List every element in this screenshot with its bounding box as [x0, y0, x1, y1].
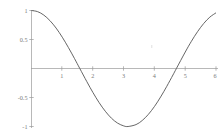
x-tick-label-6: 6 [213, 72, 216, 79]
x-tick-label-1: 1 [60, 72, 63, 79]
x-tick-label-2: 2 [91, 72, 94, 79]
y-tick-label-1: 1 [24, 7, 27, 14]
x-tick-label-3: 3 [122, 72, 125, 79]
y-tick-label-0.5: 0.5 [20, 36, 28, 43]
y-tick-label-neg1: -1 [22, 123, 27, 130]
x-tick-label-4: 4 [153, 72, 156, 79]
chart-screenshot: 1 2 3 4 5 6 1 0.5 -0.5 -1 [0, 0, 221, 138]
x-tick-label-5: 5 [184, 72, 187, 79]
artifact-speck [151, 45, 152, 48]
y-tick-label-neg0.5: -0.5 [18, 94, 28, 101]
cosine-plot: 1 2 3 4 5 6 1 0.5 -0.5 -1 [0, 0, 221, 138]
